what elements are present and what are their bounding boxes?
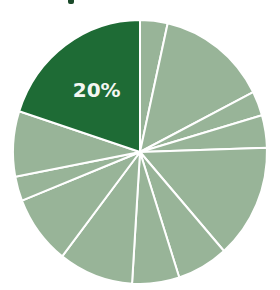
slice-percent-label: 20%	[73, 78, 121, 102]
pie-labels: 20%	[73, 78, 121, 102]
pie-slices	[13, 20, 267, 284]
pie-chart: 20%	[0, 0, 280, 290]
pie-chart-svg: 20%	[0, 0, 280, 290]
